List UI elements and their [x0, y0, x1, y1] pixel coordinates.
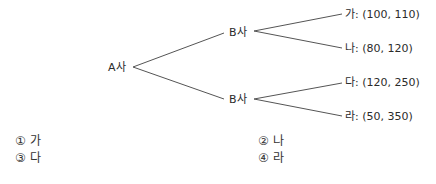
edge-b-top-ga: [254, 14, 342, 31]
edge-b-top-na: [254, 31, 342, 48]
edge-a-b-top: [133, 33, 224, 67]
edge-b-bottom-da: [254, 83, 342, 99]
leaf-ra: 라: (50, 350): [345, 110, 413, 123]
option-1[interactable]: ① 가: [15, 134, 41, 148]
game-tree-lines: [0, 0, 436, 184]
option-3[interactable]: ③ 다: [15, 151, 41, 165]
leaf-da: 다: (120, 250): [345, 76, 420, 89]
edge-b-bottom-ra: [254, 99, 342, 116]
leaf-na: 나: (80, 120): [345, 42, 413, 55]
node-b-bottom: B사: [229, 93, 247, 106]
root-node-a: A사: [108, 61, 126, 74]
option-2[interactable]: ② 나: [258, 134, 284, 148]
leaf-ga: 가: (100, 110): [345, 8, 420, 21]
node-b-top: B사: [229, 26, 247, 39]
option-4[interactable]: ④ 라: [258, 151, 284, 165]
edge-a-b-bottom: [133, 67, 224, 99]
